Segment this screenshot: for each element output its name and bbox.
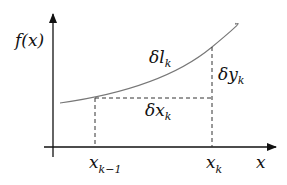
x-axis-label: x (256, 152, 266, 172)
tick-label-xk: xk (206, 152, 223, 176)
tick-xk-sub: k (216, 163, 223, 176)
delta-y-label: δyk (218, 64, 245, 87)
delta-x-label: δxk (145, 100, 172, 123)
arc-length-sub: k (165, 57, 172, 70)
delta-y-sub: k (238, 74, 245, 87)
tick-xk-main: x (206, 152, 216, 172)
arc-length-diagram: f(x) δlk δyk δxk xk−1 xk x (0, 0, 287, 185)
tick-label-xk-1: xk−1 (89, 152, 121, 176)
arc-length-main: δl (149, 47, 165, 67)
y-axis-label: f(x) (13, 30, 44, 50)
arc-length-label: δlk (149, 47, 172, 70)
delta-x-sub: k (165, 110, 172, 123)
tick-xk-1-main: x (89, 152, 99, 172)
tick-xk-1-sub: k−1 (99, 163, 122, 176)
delta-x-main: δx (145, 100, 165, 120)
delta-y-main: δy (218, 64, 238, 84)
